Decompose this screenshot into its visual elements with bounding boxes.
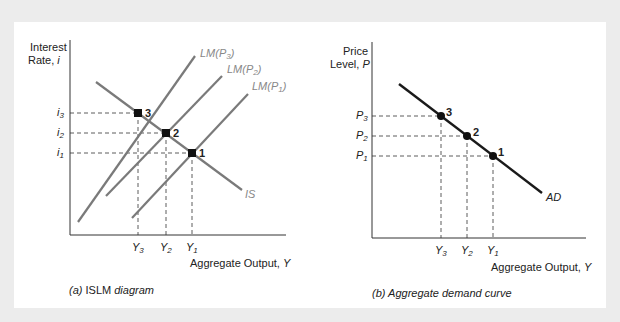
islm-y-label-2: Rate, i xyxy=(28,54,60,66)
tick-y1-b: Y1 xyxy=(487,244,499,260)
ad-point-label-1: 1 xyxy=(498,146,504,158)
lm-p3-curve xyxy=(78,56,195,222)
tick-y2-a: Y2 xyxy=(160,241,172,257)
tick-y2-b: Y2 xyxy=(461,244,473,260)
tick-p1: P1 xyxy=(356,149,368,165)
ad-x-label: Aggregate Output, Y xyxy=(491,261,591,273)
point-label-3: 3 xyxy=(145,107,151,119)
tick-i3: i3 xyxy=(57,106,64,122)
ad-caption: (b) Aggregate demand curve xyxy=(372,287,512,299)
point-label-1: 1 xyxy=(199,147,205,159)
tick-i2: i2 xyxy=(57,126,64,142)
ad-curve xyxy=(399,84,542,193)
tick-p3: P3 xyxy=(356,109,368,125)
tick-p2: P2 xyxy=(356,129,368,145)
ad-point-label-3: 3 xyxy=(446,106,452,118)
islm-curves xyxy=(78,56,248,222)
tick-y3-b: Y3 xyxy=(435,244,447,260)
tick-y3-a: Y3 xyxy=(132,241,144,257)
ad-label: AD xyxy=(546,191,561,203)
lm-p3-label: LM(P3) xyxy=(200,47,234,63)
ad-y-label-1: Price xyxy=(343,45,368,57)
islm-caption: (a) ISLM diagram xyxy=(69,284,154,296)
tick-y1-a: Y1 xyxy=(186,241,198,257)
diagram-canvas xyxy=(0,0,620,322)
lm-p2-label: LM(P2) xyxy=(227,63,261,79)
lm-p1-label: LM(P1) xyxy=(252,80,286,96)
ad-y-label-2: Level, P xyxy=(330,58,370,70)
ad-axes xyxy=(372,42,586,238)
ad-point-label-2: 2 xyxy=(473,126,479,138)
islm-x-label: Aggregate Output, Y xyxy=(190,257,290,269)
tick-i1: i1 xyxy=(57,146,64,162)
islm-y-label-1: Interest xyxy=(30,41,67,53)
is-label: IS xyxy=(245,188,255,200)
point-label-2: 2 xyxy=(173,127,179,139)
